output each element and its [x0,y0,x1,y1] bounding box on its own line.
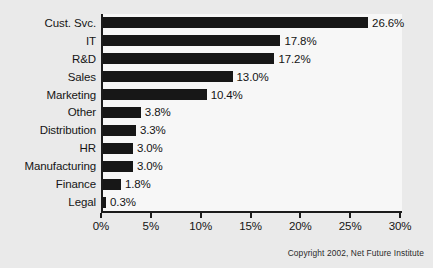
bar-row: Sales13.0% [0,68,433,86]
category-label: Manufacturing [0,160,96,172]
bar-container: 26.6% [103,14,404,32]
bar-value-label: 17.8% [284,35,316,47]
x-axis: 0%5%10%15%20%25%30% [101,213,400,239]
bar-value-label: 0.3% [110,196,136,208]
bar-value-label: 26.6% [372,17,404,29]
x-axis-tick-label: 30% [389,220,412,232]
bar-row: HR3.0% [0,139,433,157]
bar-container: 17.2% [103,50,311,68]
x-axis-tick [100,213,102,218]
category-label: Marketing [0,89,96,101]
x-axis-tick-label: 10% [189,220,212,232]
bar [103,53,274,64]
category-label: Legal [0,196,96,208]
chart-figure: Cust. Svc.26.6%IT17.8%R&D17.2%Sales13.0%… [0,0,433,268]
bar-value-label: 13.0% [237,71,269,83]
bar [103,125,136,136]
x-axis-tick-label: 25% [339,220,362,232]
category-label: Sales [0,71,96,83]
x-axis-tick-label: 20% [289,220,312,232]
x-axis-tick-label: 15% [239,220,262,232]
category-label: R&D [0,53,96,65]
category-label: Finance [0,178,96,190]
bar [103,179,121,190]
bar [103,17,368,28]
copyright-notice: Copyright 2002, Net Future Institute [288,248,424,258]
bar-container: 13.0% [103,68,269,86]
bar-container: 3.8% [103,104,171,122]
bar [103,143,133,154]
bar-container: 0.3% [103,193,136,211]
bar-row: Finance1.8% [0,175,433,193]
bar-container: 17.8% [103,32,317,50]
bar-value-label: 3.3% [140,124,166,136]
x-axis-tick-label: 5% [143,220,159,232]
category-label: Other [0,106,96,118]
bar [103,197,106,208]
bar-row: Cust. Svc.26.6% [0,14,433,32]
bar-value-label: 3.8% [145,106,171,118]
bar-container: 10.4% [103,86,243,104]
bar-value-label: 3.0% [137,142,163,154]
bar-container: 3.0% [103,157,163,175]
bar-container: 3.0% [103,139,163,157]
bar-value-label: 1.8% [125,178,151,190]
bar-value-label: 3.0% [137,160,163,172]
category-label: Distribution [0,124,96,136]
bar [103,161,133,172]
bar [103,89,207,100]
bar [103,71,233,82]
x-axis-tick [250,213,252,218]
bar-rows: Cust. Svc.26.6%IT17.8%R&D17.2%Sales13.0%… [0,14,433,211]
x-axis-tick [299,213,301,218]
bar-row: Distribution3.3% [0,121,433,139]
bar-row: Legal0.3% [0,193,433,211]
bar-row: Manufacturing3.0% [0,157,433,175]
x-axis-tick-label: 0% [93,220,109,232]
x-axis-tick [150,213,152,218]
category-label: IT [0,35,96,47]
x-axis-tick [349,213,351,218]
bar-container: 1.8% [103,175,151,193]
bar [103,107,141,118]
bar-row: IT17.8% [0,32,433,50]
x-axis-tick [399,213,401,218]
category-label: HR [0,142,96,154]
bar-row: Marketing10.4% [0,86,433,104]
category-label: Cust. Svc. [0,17,96,29]
bar-row: R&D17.2% [0,50,433,68]
bar-value-label: 17.2% [278,53,310,65]
bar-row: Other3.8% [0,104,433,122]
bar-value-label: 10.4% [211,89,243,101]
bar [103,35,280,46]
x-axis-tick [200,213,202,218]
bar-container: 3.3% [103,121,166,139]
